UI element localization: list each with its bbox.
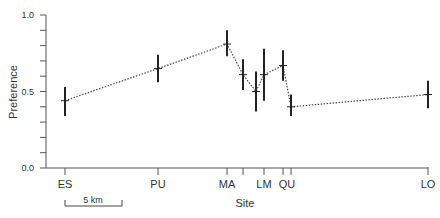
site-label-lo: LO xyxy=(421,178,436,190)
y-tick-label: 0.5 xyxy=(21,87,34,97)
site-label-lm: LM xyxy=(256,178,271,190)
preference-chart: 0.00.51.0 ESPUMALMQULO Preference Site 5… xyxy=(0,0,440,218)
y-axis-title: Preference xyxy=(7,65,19,119)
site-label-pu: PU xyxy=(150,178,165,190)
y-tick-label: 1.0 xyxy=(21,10,34,20)
data-point-qu xyxy=(287,95,295,116)
data-point-pu xyxy=(154,55,162,83)
y-axis: 0.00.51.0 xyxy=(21,10,46,173)
scale-bar-label: 5 km xyxy=(83,195,103,205)
site-label-ma: MA xyxy=(219,178,236,190)
preference-line xyxy=(65,44,428,107)
data-point-es xyxy=(61,87,69,116)
x-axis: ESPUMALMQULO xyxy=(46,167,436,190)
site-label-es: ES xyxy=(58,178,73,190)
data-series xyxy=(61,30,432,116)
data-point-ma xyxy=(223,30,231,56)
x-axis-title: Site xyxy=(236,197,255,209)
site-label-qu: QU xyxy=(279,178,296,190)
data-point xyxy=(252,72,260,112)
data-point-lo xyxy=(424,81,432,109)
data-point xyxy=(239,59,247,90)
data-point xyxy=(279,50,287,81)
data-point-lm xyxy=(260,49,268,101)
scale-bar: 5 km xyxy=(65,195,122,206)
y-tick-label: 0.0 xyxy=(21,163,34,173)
